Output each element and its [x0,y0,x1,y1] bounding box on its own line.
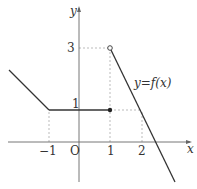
y-axis-label: y [69,4,77,18]
segment-steep [111,50,175,182]
y-tick-3: 3 [67,41,75,55]
guide-lines [49,48,142,142]
x-tick-neg1: −1 [39,144,57,158]
origin-label: O [70,144,80,158]
x-tick-2: 2 [138,144,146,158]
function-graph: y x O −1 1 2 1 3 y=f(x) [0,0,197,189]
segment-left [9,70,49,110]
y-tick-1: 1 [72,97,80,111]
function-label: y=f(x) [133,76,172,90]
x-axis-label: x [187,142,194,156]
closed-point [108,108,112,112]
open-point [108,46,113,51]
x-tick-1: 1 [107,144,115,158]
y-axis-arrow-icon [77,6,81,12]
function-curve [9,50,175,182]
